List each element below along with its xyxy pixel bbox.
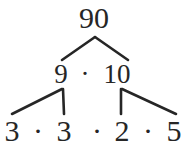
operator-dot-level2-3: ·: [143, 116, 153, 146]
edge-nine-to-three-a: [12, 89, 62, 114]
operator-dot-level2-1: ·: [33, 116, 43, 146]
edge-root-to-9: [62, 37, 95, 60]
factor-tree-diagram: 90 9 · 10 3 · 3 · 2 · 5: [0, 0, 190, 153]
operator-dot-level2-2: ·: [92, 116, 102, 146]
node-level2-two: 2: [115, 116, 130, 146]
node-level1-left-9: 9: [54, 61, 68, 88]
node-level1-right-10: 10: [104, 61, 131, 88]
node-level2-five: 5: [167, 116, 182, 146]
node-root-90: 90: [79, 3, 109, 33]
node-level2-three-b: 3: [57, 116, 72, 146]
operator-dot-level1: ·: [81, 61, 90, 88]
edge-ten-to-five: [122, 89, 176, 114]
edge-root-to-10: [95, 37, 128, 60]
node-level2-three-a: 3: [5, 116, 20, 146]
edge-nine-to-three-b: [63, 89, 64, 114]
